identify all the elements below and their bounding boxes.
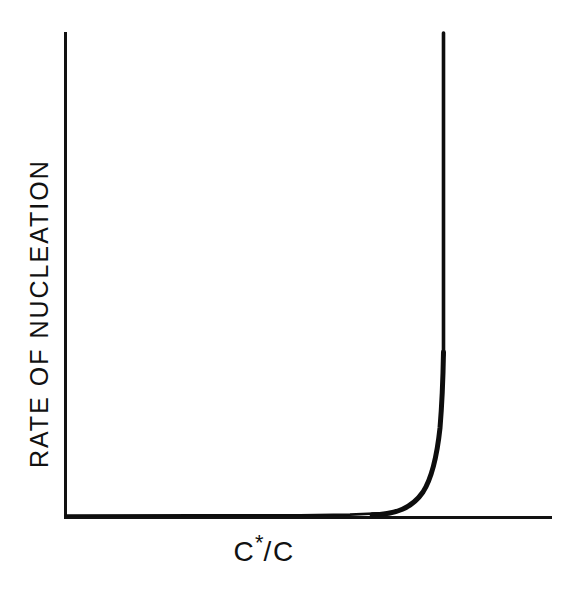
- nucleation-rate-figure: RATE OF NUCLEATION C*/C: [0, 0, 574, 595]
- nucleation-curve-baseline-segment: [66, 513, 380, 515]
- nucleation-curve-knee-segment: [372, 352, 444, 515]
- plot-canvas: [0, 0, 574, 595]
